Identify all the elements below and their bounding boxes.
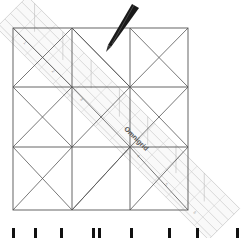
clear-ruler: Omnigrid 1 2 3 4 5 6: [0, 0, 240, 238]
diagram-canvas: Omnigrid 1 2 3 4 5 6: [0, 0, 250, 238]
quilt-diagram: Omnigrid 1 2 3 4 5 6: [0, 0, 250, 238]
cropped-caption: [0, 226, 250, 238]
